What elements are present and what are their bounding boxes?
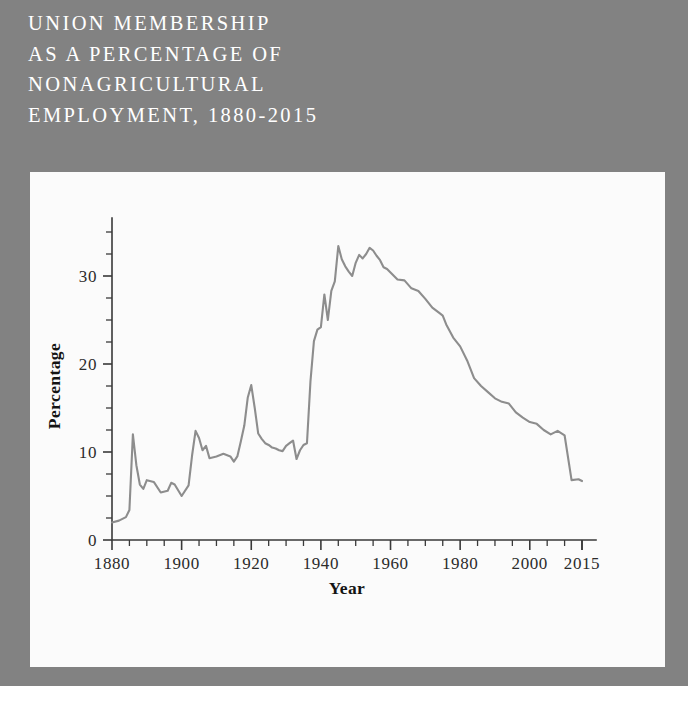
y-tick-label: 30 — [79, 267, 97, 286]
chart-ticks — [103, 232, 582, 550]
figure-title: UNION MEMBERSHIP AS A PERCENTAGE OF NONA… — [28, 8, 648, 164]
figure-root: UNION MEMBERSHIP AS A PERCENTAGE OF NONA… — [0, 0, 688, 711]
x-tick-label: 1880 — [94, 554, 130, 573]
chart-tick-labels: 010203018801900192019401960198020002015 — [79, 267, 600, 573]
x-tick-label: 2000 — [512, 554, 548, 573]
line-chart: 010203018801900192019401960198020002015 … — [30, 172, 665, 667]
x-tick-label: 2015 — [564, 554, 600, 573]
series-union-membership — [112, 246, 582, 522]
x-tick-label: 1960 — [372, 554, 408, 573]
y-axis-title: Percentage — [44, 343, 64, 429]
x-tick-label: 1980 — [442, 554, 478, 573]
chart-panel: 010203018801900192019401960198020002015 … — [30, 172, 665, 667]
x-tick-label: 1940 — [303, 554, 339, 573]
x-axis-title: Year — [329, 578, 366, 598]
y-tick-label: 20 — [79, 355, 97, 374]
x-tick-label: 1900 — [163, 554, 199, 573]
x-tick-label: 1920 — [233, 554, 269, 573]
y-tick-label: 0 — [88, 531, 97, 550]
y-tick-label: 10 — [79, 443, 97, 462]
